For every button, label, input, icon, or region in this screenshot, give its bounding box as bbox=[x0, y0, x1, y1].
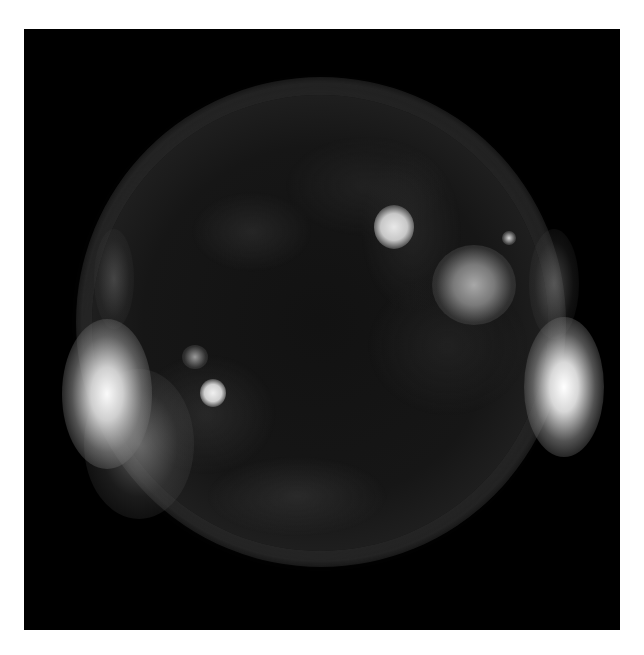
active-region-southwest-faint bbox=[182, 345, 208, 369]
solar-image-frame bbox=[24, 29, 620, 630]
bright-point-northeast bbox=[502, 231, 516, 245]
limb-brightening-east bbox=[524, 317, 604, 457]
active-region-southwest bbox=[200, 379, 226, 407]
active-region-northeast bbox=[432, 245, 516, 325]
active-region-north-center bbox=[374, 205, 414, 249]
limb-glow-west-upper bbox=[94, 229, 134, 329]
limb-brightening-west bbox=[62, 319, 152, 469]
